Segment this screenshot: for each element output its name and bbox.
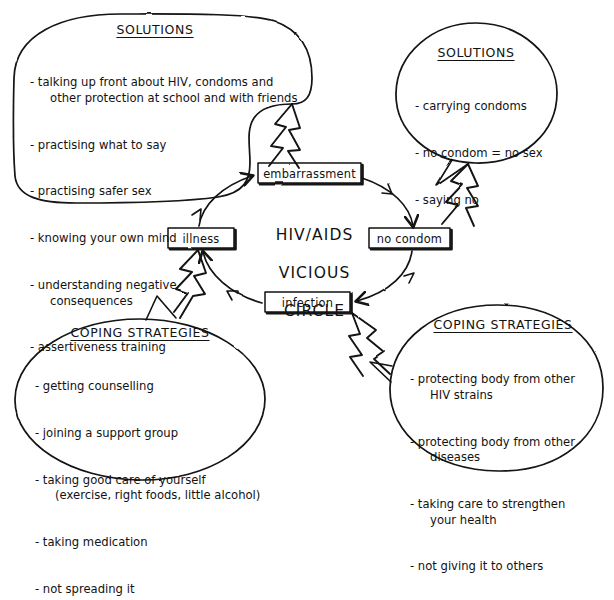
list-item: - not giving it to others xyxy=(410,559,605,575)
callout-title-solutions-embarrassment: SOLUTIONS xyxy=(75,22,235,37)
list-item: - protecting body from other diseases xyxy=(410,435,605,466)
list-item: - talking up front about HIV, condoms an… xyxy=(30,75,300,106)
callout-list-coping-illness: - getting counselling - joining a suppor… xyxy=(35,348,265,600)
list-item: - taking care to strengthen your health xyxy=(410,497,605,528)
arc-no-condom-to-infection xyxy=(357,251,414,301)
list-item: - no condom = no sex xyxy=(415,146,555,162)
list-item: - carrying condoms xyxy=(415,99,555,115)
callout-title-coping-illness: COPING STRATEGIES xyxy=(60,325,220,340)
callout-title-coping-infection: COPING STRATEGIES xyxy=(423,317,583,332)
list-item: - getting counselling xyxy=(35,379,265,395)
callout-title-solutions-no-condom: SOLUTIONS xyxy=(416,45,536,60)
arc-embarrassment-to-no-condom xyxy=(362,178,413,226)
list-item: - practising what to say xyxy=(30,138,300,154)
list-item: - saying no xyxy=(415,193,555,209)
list-item: - understanding negative consequences xyxy=(30,278,300,309)
callout-list-coping-infection: - protecting body from other HIV strains… xyxy=(410,341,605,600)
list-item: - joining a support group xyxy=(35,426,265,442)
callout-list-solutions-no-condom: - carrying condoms - no condom = no sex … xyxy=(415,68,555,240)
list-item: - not spreading it xyxy=(35,582,265,598)
list-item: - practising safer sex xyxy=(30,184,300,200)
list-item: - protecting body from other HIV strains xyxy=(410,372,605,403)
list-item: - taking medication xyxy=(35,535,265,551)
list-item: - knowing your own mind xyxy=(30,231,300,247)
list-item: - taking good care of yourself (exercise… xyxy=(35,473,265,504)
